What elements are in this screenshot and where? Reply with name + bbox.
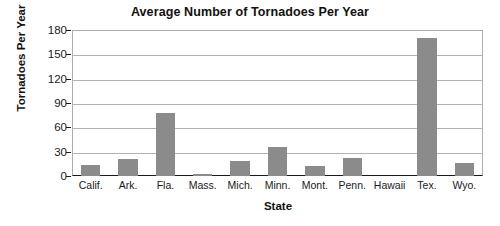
x-tick-label-mont: Mont. [296,179,333,191]
y-tick-mark-0 [66,176,71,177]
bar-mont [305,166,324,176]
y-tick-label-180: 180 [6,24,72,36]
bars-layer [72,30,483,176]
bar-fla [156,113,175,176]
y-tick-label-120: 120 [6,73,72,85]
x-tick-label-minn: Minn. [259,179,296,191]
y-tick-mark-30 [66,152,71,153]
x-tick-label-tex: Tex. [408,179,445,191]
y-tick-mark-60 [66,127,71,128]
x-tick-label-mass: Mass. [184,179,221,191]
x-axis-tick-labels: Calif.Ark.Fla.Mass.Mich.Minn.Mont.Penn.H… [72,179,483,196]
bar-tex [417,38,436,176]
chart-title: Average Number of Tornadoes Per Year [0,5,500,19]
y-tick-label-30: 30 [6,146,72,158]
bar-wyo [455,163,474,176]
x-tick-label-wyo: Wyo. [446,179,483,191]
bar-ark [118,159,137,176]
y-tick-label-150: 150 [6,48,72,60]
x-tick-label-calif: Calif. [72,179,109,191]
y-tick-label-90: 90 [6,97,72,109]
x-tick-label-penn: Penn. [334,179,371,191]
x-tick-label-mich: Mich. [221,179,258,191]
bar-mich [230,161,249,176]
y-tick-label-0: 0 [6,170,72,182]
x-axis-label: State [72,200,484,212]
bar-minn [268,147,287,176]
y-tick-mark-180 [66,30,71,31]
y-tick-label-60: 60 [6,121,72,133]
x-tick-label-ark: Ark. [109,179,146,191]
y-tick-mark-120 [66,79,71,80]
bar-mass [193,174,212,176]
bar-penn [343,158,362,176]
bar-chart: Average Number of Tornadoes Per Year Tor… [0,0,500,226]
y-axis-ticks: 0306090120150180 [0,30,72,176]
y-tick-mark-150 [66,54,71,55]
x-tick-label-hawaii: Hawaii [371,179,408,191]
bar-calif [81,165,100,176]
y-tick-mark-90 [66,103,71,104]
x-tick-label-fla: Fla. [147,179,184,191]
